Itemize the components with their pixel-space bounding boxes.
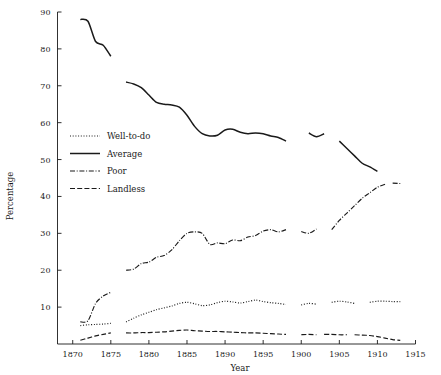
x-tick-label: 1895 (253, 350, 273, 359)
x-tick-label: 1905 (329, 350, 349, 359)
chart-legend: Well-to-doAveragePoorLandless (70, 131, 150, 194)
y-axis-ticks (58, 12, 62, 307)
axes: 102030405060708090 187018751880188518901… (40, 8, 425, 359)
x-tick-label: 1885 (177, 350, 197, 359)
series-segment (80, 323, 110, 325)
y-tick-label: 10 (40, 303, 50, 312)
x-tick-label: 1880 (139, 350, 159, 359)
x-tick-label: 1890 (215, 350, 235, 359)
y-tick-label: 30 (40, 229, 50, 238)
x-tick-label: 1910 (367, 350, 387, 359)
legend-label: Poor (107, 166, 128, 176)
series-segment (80, 19, 110, 56)
y-tick-label: 40 (40, 192, 50, 201)
series-segment (355, 335, 401, 341)
series-poor (80, 183, 400, 322)
x-tick-label: 1915 (405, 350, 425, 359)
legend-item-poor: Poor (70, 166, 128, 176)
series-segment (332, 301, 355, 303)
x-axis-ticks (73, 340, 416, 344)
series-segment (126, 300, 286, 322)
y-axis-title: Percentage (5, 172, 15, 221)
y-tick-label: 70 (40, 82, 50, 91)
series-segment (309, 133, 324, 137)
y-tick-label: 60 (40, 119, 50, 128)
legend-label: Well-to-do (107, 131, 150, 141)
series-segment (80, 333, 110, 340)
y-tick-label: 20 (40, 266, 50, 275)
x-axis-tick-labels: 1870187518801885189018951900190519101915 (63, 350, 426, 359)
chart-container: 102030405060708090 187018751880188518901… (0, 0, 441, 375)
x-tick-label: 1900 (291, 350, 311, 359)
line-chart: 102030405060708090 187018751880188518901… (0, 0, 441, 375)
x-axis-title: Year (229, 363, 250, 373)
legend-item-well-to-do: Well-to-do (70, 131, 150, 141)
y-tick-label: 80 (40, 45, 50, 54)
series-segment (126, 230, 286, 271)
legend-item-landless: Landless (70, 184, 145, 194)
series-segment (301, 229, 316, 233)
y-axis-tick-labels: 102030405060708090 (40, 8, 50, 312)
legend-label: Landless (107, 184, 145, 194)
series-segment (301, 303, 316, 304)
y-tick-label: 50 (40, 156, 50, 165)
legend-item-average: Average (70, 149, 142, 159)
y-tick-label: 90 (40, 8, 50, 17)
data-series-group (80, 19, 400, 340)
series-segment (80, 292, 110, 322)
series-well-to-do (80, 300, 400, 325)
x-tick-label: 1870 (63, 350, 83, 359)
series-segment (332, 184, 385, 229)
series-landless (80, 330, 400, 340)
series-segment (339, 141, 377, 171)
x-tick-label: 1875 (101, 350, 121, 359)
legend-label: Average (106, 149, 142, 159)
series-segment (126, 330, 286, 334)
series-segment (370, 301, 400, 302)
